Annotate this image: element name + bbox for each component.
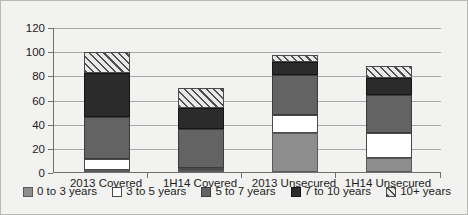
- bar-segment-5to7: [84, 117, 130, 159]
- bar-segment-10plus: [178, 88, 224, 107]
- bar-segment-10plus: [366, 66, 412, 78]
- bar-segment-5to7: [272, 75, 318, 115]
- y-tick-label: 100: [15, 47, 45, 59]
- stacked-bar-chart: 120 100 80 60 40 20 0: [0, 0, 468, 215]
- legend-swatch-10plus-icon: [386, 187, 396, 197]
- legend-swatch-5to7-icon: [201, 187, 211, 197]
- bar-2013-unsecured: [272, 55, 318, 172]
- bar-segment-0to3: [84, 170, 130, 172]
- legend-swatch-3to5-icon: [112, 187, 122, 197]
- legend-label: 10+ years: [400, 186, 451, 198]
- bar-segment-7to10: [84, 73, 130, 117]
- bar-segment-0to3: [366, 158, 412, 173]
- bar-segment-0to3: [178, 170, 224, 172]
- bar-segment-3to5: [272, 115, 318, 133]
- bar-1h14-unsecured: [366, 66, 412, 172]
- legend-item-10plus: 10+ years: [386, 186, 451, 198]
- y-tick-label: 20: [15, 144, 45, 156]
- y-tick-mark: [48, 173, 53, 174]
- y-tick-label: 80: [15, 71, 45, 83]
- bar-2013-covered: [84, 52, 130, 172]
- bar-segment-3to5: [84, 159, 130, 170]
- y-tick-label: 0: [15, 168, 45, 180]
- bar-segment-7to10: [178, 108, 224, 130]
- bar-segment-0to3: [272, 133, 318, 172]
- legend-label: 0 to 3 years: [37, 186, 97, 198]
- bar-segment-7to10: [272, 62, 318, 75]
- legend-item-3to5: 3 to 5 years: [112, 186, 186, 198]
- bar-segment-3to5: [366, 133, 412, 157]
- chart-legend: 0 to 3 years 3 to 5 years 5 to 7 years 7…: [23, 186, 451, 198]
- bar-segment-5to7: [366, 95, 412, 134]
- bar-segment-10plus: [84, 52, 130, 74]
- legend-swatch-7to10-icon: [291, 187, 301, 197]
- legend-label: 3 to 5 years: [126, 186, 186, 198]
- legend-label: 7 to 10 years: [305, 186, 371, 198]
- gridline: [54, 28, 441, 29]
- legend-label: 5 to 7 years: [215, 186, 275, 198]
- bar-segment-10plus: [272, 55, 318, 62]
- y-tick-label: 60: [15, 96, 45, 108]
- legend-swatch-0to3-icon: [23, 187, 33, 197]
- legend-item-0to3: 0 to 3 years: [23, 186, 97, 198]
- bar-1h14-covered: [178, 88, 224, 172]
- y-tick-label: 120: [15, 23, 45, 35]
- plot-area: [53, 28, 441, 173]
- legend-item-7to10: 7 to 10 years: [291, 186, 371, 198]
- bar-segment-7to10: [366, 78, 412, 95]
- y-tick-label: 40: [15, 120, 45, 132]
- bar-segment-5to7: [178, 129, 224, 168]
- legend-item-5to7: 5 to 7 years: [201, 186, 275, 198]
